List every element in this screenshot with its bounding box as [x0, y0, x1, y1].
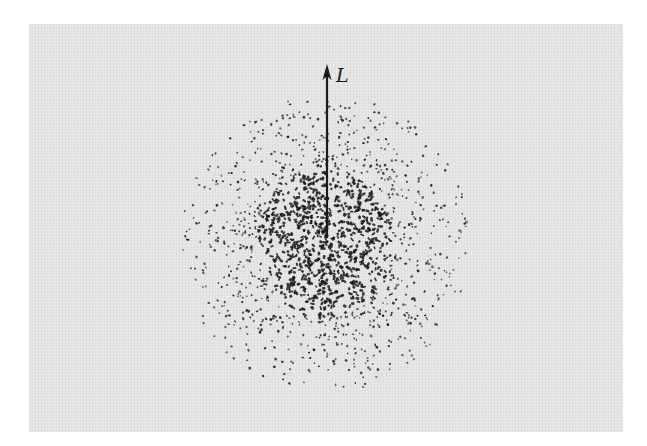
point-cloud-diagram: [0, 0, 647, 446]
vector-label: L: [336, 66, 349, 85]
point-cloud: [182, 101, 468, 389]
